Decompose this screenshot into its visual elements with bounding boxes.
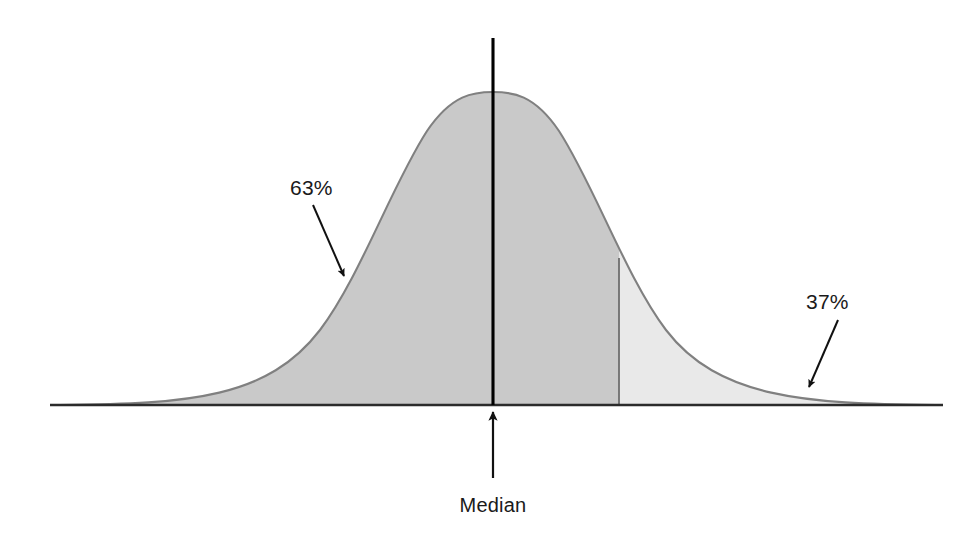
right-percent-arrow (809, 320, 838, 387)
left-percent-arrow (313, 205, 344, 276)
distribution-figure: 63% 37% Median (0, 0, 980, 547)
median-label-text: Median (460, 494, 527, 517)
right-percent-label: 37% (806, 290, 849, 314)
region-fill-right (619, 80, 949, 410)
distribution-chart-svg (0, 0, 980, 547)
left-percent-label: 63% (290, 176, 333, 200)
median-axis-label: Median (0, 494, 980, 517)
